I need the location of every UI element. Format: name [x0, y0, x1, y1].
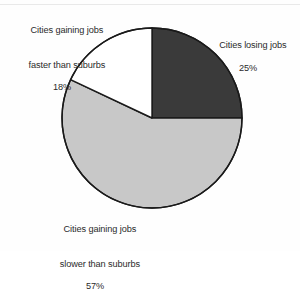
slice-label-gaining-slower-percent: 57% — [27, 281, 163, 292]
slice-label-gaining-faster-percent: 18% — [6, 82, 118, 93]
slice-label-gaining-faster-line2: faster than suburbs — [29, 60, 106, 70]
slice-label-gaining-faster: Cities gaining jobs faster than suburbs … — [6, 14, 118, 117]
slice-label-gaining-slower-line2: slower than suburbs — [60, 259, 140, 269]
slice-label-losing-percent: 25% — [200, 63, 296, 74]
slice-label-gaining-slower: Cities gaining jobs slower than suburbs … — [27, 213, 163, 293]
slice-label-gaining-slower-line1: Cities gaining jobs — [64, 224, 137, 234]
slice-label-losing-line1: Cities losing jobs — [219, 40, 286, 50]
slice-label-losing: Cities losing jobs 25% — [200, 29, 296, 97]
slice-label-gaining-faster-line1: Cities gaining jobs — [31, 25, 104, 35]
